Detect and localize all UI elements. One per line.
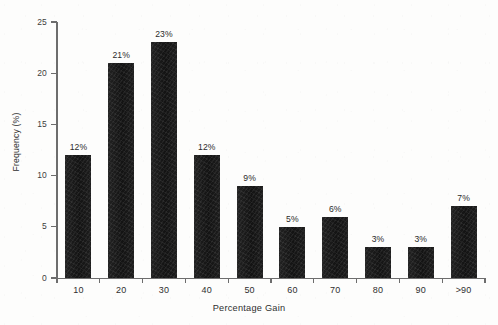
bar [451, 206, 477, 278]
bar [151, 42, 177, 278]
bar-value-label: 6% [310, 204, 360, 214]
bar-value-label: 12% [182, 142, 232, 152]
y-axis-tick-label: 20 [7, 68, 47, 78]
x-axis-tick [399, 278, 400, 283]
bar-value-label: 21% [96, 50, 146, 60]
x-axis-tick [99, 278, 100, 283]
x-axis-tick [270, 278, 271, 283]
bar-value-label: 3% [396, 234, 446, 244]
bar [194, 155, 220, 278]
y-axis-title: Frequency (%) [11, 82, 21, 202]
y-axis-tick-label: 5 [7, 221, 47, 231]
x-axis-tick [142, 278, 143, 283]
bar-value-label: 23% [139, 29, 189, 39]
bar [322, 217, 348, 278]
bar [408, 247, 434, 278]
y-axis-tick-label: 25 [7, 17, 47, 27]
x-axis-tick [484, 278, 485, 283]
x-axis-tick-label: >90 [434, 285, 494, 295]
bar-value-label: 12% [53, 142, 103, 152]
x-axis-title: Percentage Gain [0, 303, 498, 313]
x-axis-tick [56, 278, 57, 283]
x-axis-tick [313, 278, 314, 283]
bar [65, 155, 91, 278]
bar-value-label: 5% [267, 214, 317, 224]
bar [237, 186, 263, 278]
bar-value-label: 9% [225, 173, 275, 183]
x-axis-tick [185, 278, 186, 283]
bar [279, 227, 305, 278]
x-axis-tick [356, 278, 357, 283]
x-axis-tick [228, 278, 229, 283]
bar [365, 247, 391, 278]
bar-value-label: 7% [439, 193, 489, 203]
x-axis-tick [442, 278, 443, 283]
y-axis-tick-label: 0 [7, 273, 47, 283]
bar [108, 63, 134, 278]
bar-chart: 0510152025 12%21%23%12%9%5%6%3%3%7% 1020… [0, 0, 498, 325]
